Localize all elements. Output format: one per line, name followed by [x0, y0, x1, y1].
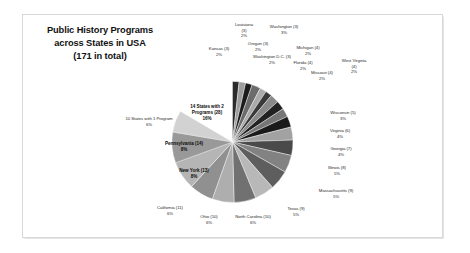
- pie-slice-label: North Carolina (10) 6%: [235, 214, 271, 225]
- pie-slice-label: 10 States with 1 Program 6%: [125, 116, 172, 127]
- pie-slice-label: Pennsylvania (14) 8%: [165, 141, 203, 153]
- pie-slice-label: Wisconsin (5) 3%: [330, 110, 355, 121]
- pie-slice-label: Ohio (10) 6%: [200, 214, 217, 225]
- pie-slice-label: Oregon (3) 2%: [248, 41, 268, 52]
- pie-slice-label: California (11) 6%: [157, 205, 183, 216]
- pie-slice-label: Washington D.C. (3) 2%: [253, 54, 291, 65]
- pie-slice-label: Michigan (4) 2%: [296, 45, 319, 56]
- pie-slice-label: Illinois (8) 5%: [328, 165, 346, 176]
- pie-slice-label: Louisiana (3) 2%: [235, 22, 253, 39]
- pie-slice-label: Kansas (3) 2%: [209, 46, 229, 57]
- pie-slice-label: 14 States with 2 Programs (28) 16%: [190, 104, 224, 122]
- pie-chart: 14 States with 2 Programs (28) 16%Louisi…: [0, 0, 470, 253]
- pie-slice-label: Florida (4) 2%: [293, 60, 312, 71]
- pie-slice-label: West Virginia (4) 2%: [342, 58, 367, 75]
- pie-slice-label: Virginia (6) 4%: [330, 128, 350, 139]
- pie-slice-label: Georgia (7) 4%: [330, 146, 351, 157]
- pie-slice-label: Washington (3) 3%: [270, 24, 298, 35]
- pie-slice-label: Texas (9) 5%: [287, 206, 304, 217]
- pie-slice-label: Massachusetts (9) 5%: [319, 188, 353, 199]
- pie-slice-label: Missouri (4) 2%: [311, 70, 333, 81]
- pie-slice-label: New York (13) 8%: [179, 168, 208, 180]
